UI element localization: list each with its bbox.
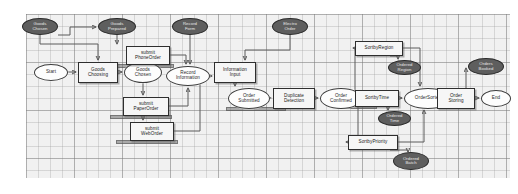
node-ac-dup-detection[interactable]: DuplicateDetection — [273, 88, 315, 109]
node-label: RecordInformation — [176, 71, 200, 80]
node-label: submitWebOrder — [141, 127, 163, 136]
node-ev-order-booked[interactable]: OrdersBooked — [468, 58, 504, 75]
node-label: RecordForm — [183, 22, 197, 31]
node-label: SortbyPriority — [359, 140, 388, 145]
node-ev-goods-prepared[interactable]: GoodsPrepared — [98, 18, 136, 35]
node-st-start[interactable]: Start — [34, 64, 68, 81]
node-label: GoodsPrepared — [108, 22, 126, 31]
node-ac-sort-time[interactable]: SortbyTime — [355, 90, 399, 107]
node-ev-electro-order[interactable]: ElectroOrder — [272, 18, 308, 35]
node-label: OrderedTime — [386, 114, 402, 123]
node-label: SortbyTime — [365, 96, 389, 101]
node-ac-order-storing[interactable]: OrderStoring — [437, 88, 475, 109]
node-ev-record-form[interactable]: RecordForm — [172, 18, 208, 35]
node-label: GoodsChoosing — [88, 68, 108, 77]
node-ac-goods-choosing[interactable]: GoodsChoosing — [78, 62, 118, 83]
node-ev-ordered-region[interactable]: OrderedRegion — [388, 60, 421, 75]
node-label: submitPaperOrder — [134, 102, 159, 111]
node-label: OrderStoring — [448, 94, 463, 103]
node-label: ElectroOrder — [283, 22, 297, 31]
node-ac-submit-web[interactable]: submitWebOrder — [130, 122, 174, 141]
node-label: OrderedRegion — [396, 63, 412, 72]
node-st-order-submitted[interactable]: OrderSubmitted — [228, 88, 270, 109]
node-label: InformationInput — [223, 68, 247, 77]
node-ac-info-input[interactable]: InformationInput — [214, 62, 256, 83]
node-label: DuplicateDetection — [284, 94, 304, 103]
node-label: OrderedBatch — [403, 157, 419, 166]
node-label: OrdersBooked — [479, 62, 494, 71]
node-label: GoodsChosen — [32, 22, 47, 31]
node-label: SortbyRegion — [365, 46, 394, 51]
node-ac-sort-region[interactable]: SortbyRegion — [355, 41, 403, 56]
node-ev-ordered-time[interactable]: OrderedTime — [378, 111, 411, 126]
node-label: Start — [46, 70, 56, 75]
node-label: GoodsChosen — [135, 68, 151, 77]
node-label: End — [492, 96, 500, 101]
node-st-end[interactable]: End — [481, 90, 511, 107]
node-label: OrderConfirmed — [330, 94, 352, 103]
node-ev-goods-chosen[interactable]: GoodsChosen — [22, 18, 58, 35]
node-ac-submit-phone[interactable]: submitPhoneOrder — [126, 46, 170, 65]
node-st-goods-chosen[interactable]: GoodsChosen — [124, 62, 162, 83]
node-ac-sort-priority[interactable]: SortbyPriority — [348, 135, 398, 150]
node-ac-submit-paper[interactable]: submitPaperOrder — [123, 97, 169, 116]
node-ev-ordered-batch[interactable]: OrderedBatch — [393, 152, 429, 170]
node-st-record-info[interactable]: RecordInformation — [166, 66, 210, 86]
diagram-root: GoodsChosenGoodsPreparedRecordFormElectr… — [0, 0, 518, 194]
node-label: OrderSubmitted — [238, 94, 260, 103]
node-label: submitPhoneOrder — [135, 51, 161, 60]
